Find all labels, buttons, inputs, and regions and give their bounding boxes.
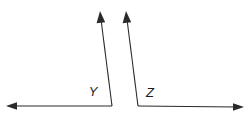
angle-z-group: Z — [123, 11, 244, 111]
angle-y-group: Y — [6, 11, 112, 110]
angle-diagram-canvas: Y Z — [0, 0, 250, 119]
angle-z-right-arrowhead-icon — [233, 103, 244, 111]
angle-z-slanted-up-ray — [127, 21, 138, 106]
angle-y-left-arrowhead-icon — [6, 102, 17, 110]
angle-label-y: Y — [89, 84, 99, 99]
angle-z-up-arrowhead-icon — [123, 11, 132, 23]
angle-z-horizontal-right-ray — [138, 106, 236, 107]
angle-y-slanted-up-ray — [101, 21, 112, 106]
angle-label-z: Z — [145, 85, 155, 100]
angle-y-up-arrowhead-icon — [97, 11, 106, 23]
angle-diagram-svg: Y Z — [0, 0, 250, 119]
